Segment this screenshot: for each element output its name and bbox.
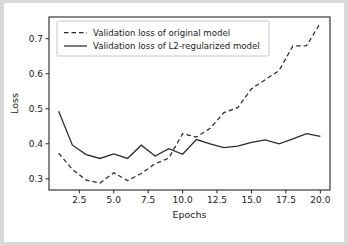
y-tick-label: 0.6: [29, 69, 44, 79]
x-axis-label: Epochs: [172, 209, 206, 220]
figure-canvas: 2.55.07.510.012.515.017.520.0 0.30.40.50…: [4, 3, 344, 242]
x-tick-label: 20.0: [310, 195, 330, 205]
legend-label-original: Validation loss of original model: [93, 28, 230, 38]
y-tick-label: 0.4: [29, 139, 44, 149]
x-tick-label: 5.0: [107, 195, 122, 205]
y-axis-ticks: 0.30.40.50.60.7: [29, 34, 49, 184]
chart-legend: Validation loss of original model Valida…: [57, 21, 269, 56]
x-tick-label: 12.5: [207, 195, 227, 205]
x-tick-label: 17.5: [276, 195, 296, 205]
y-tick-label: 0.5: [29, 104, 43, 114]
x-axis-ticks: 2.55.07.510.012.515.017.520.0: [72, 190, 331, 205]
x-tick-label: 7.5: [141, 195, 155, 205]
legend-label-l2: Validation loss of L2-regularized model: [93, 41, 260, 51]
line-chart: 2.55.07.510.012.515.017.520.0 0.30.40.50…: [4, 3, 344, 242]
y-axis-label: Loss: [9, 93, 20, 114]
y-tick-label: 0.3: [29, 174, 43, 184]
x-tick-label: 2.5: [72, 195, 86, 205]
x-tick-label: 10.0: [173, 195, 193, 205]
x-tick-label: 15.0: [241, 195, 261, 205]
y-tick-label: 0.7: [29, 34, 43, 44]
